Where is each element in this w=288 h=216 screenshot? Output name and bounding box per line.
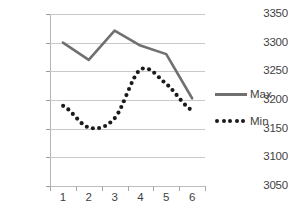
x-tick-mark bbox=[179, 186, 180, 191]
y-tick-mark bbox=[46, 14, 50, 15]
series-dot bbox=[75, 117, 79, 121]
series-dot bbox=[91, 126, 95, 130]
series-dot bbox=[119, 105, 123, 109]
legend-label-max: Max bbox=[248, 88, 272, 100]
y-tick-mark bbox=[46, 43, 50, 44]
y-tick-mark bbox=[46, 100, 50, 101]
x-tick-mark bbox=[153, 186, 154, 191]
legend-item-min: Min bbox=[214, 107, 288, 134]
y-tick-mark bbox=[46, 157, 50, 158]
series-dot bbox=[170, 88, 174, 92]
series-dot bbox=[97, 126, 101, 130]
series-dot bbox=[61, 104, 65, 108]
x-tick-mark bbox=[50, 186, 51, 191]
series-dot bbox=[122, 99, 126, 103]
series-dot bbox=[166, 84, 170, 88]
series-dot bbox=[85, 125, 89, 129]
series-dot bbox=[152, 71, 156, 75]
series-layer bbox=[50, 14, 205, 186]
series-dot bbox=[188, 107, 192, 111]
series-dot bbox=[103, 124, 107, 128]
series-dot bbox=[124, 93, 128, 97]
series-dot bbox=[136, 70, 140, 74]
series-dot bbox=[141, 66, 145, 70]
series-dot bbox=[147, 67, 151, 71]
legend-label-min: Min bbox=[248, 115, 269, 127]
series-dot bbox=[80, 121, 84, 125]
x-tick-label: 5 bbox=[153, 191, 179, 203]
x-tick-mark bbox=[205, 186, 206, 191]
x-tick-mark bbox=[102, 186, 103, 191]
series-dot bbox=[66, 107, 70, 111]
y-tick-label: 3350 bbox=[244, 8, 288, 20]
line-chart: 3050310031503200325033003350 123456 Max … bbox=[0, 0, 288, 216]
y-tick-label: 3300 bbox=[244, 37, 288, 49]
dotted-line-swatch-icon bbox=[214, 115, 248, 127]
series-dot bbox=[127, 87, 131, 91]
y-tick-mark bbox=[46, 129, 50, 130]
y-tick-mark bbox=[46, 71, 50, 72]
series-dot bbox=[113, 116, 117, 120]
x-tick-mark bbox=[76, 186, 77, 191]
x-tick-label: 1 bbox=[50, 191, 76, 203]
x-tick-label: 4 bbox=[127, 191, 153, 203]
series-dots-min bbox=[61, 66, 192, 130]
y-tick-label: 3100 bbox=[244, 151, 288, 163]
y-tick-label: 3250 bbox=[244, 65, 288, 77]
solid-line-swatch-icon bbox=[214, 88, 248, 100]
series-dot bbox=[175, 93, 179, 97]
x-tick-label: 2 bbox=[76, 191, 102, 203]
x-tick-label: 3 bbox=[102, 191, 128, 203]
series-dot bbox=[108, 120, 112, 124]
plot-area bbox=[50, 14, 205, 186]
series-dot bbox=[116, 111, 120, 115]
series-dot bbox=[161, 80, 165, 84]
series-dot bbox=[183, 103, 187, 107]
legend-item-max: Max bbox=[214, 80, 288, 107]
series-dot bbox=[132, 75, 136, 79]
series-dot bbox=[130, 81, 134, 85]
series-dot bbox=[179, 98, 183, 102]
series-dot bbox=[71, 112, 75, 116]
y-tick-label: 3050 bbox=[244, 180, 288, 192]
x-tick-mark bbox=[128, 186, 129, 191]
series-dot bbox=[157, 75, 161, 79]
chart-legend: Max Min bbox=[214, 80, 288, 134]
x-tick-label: 6 bbox=[179, 191, 205, 203]
